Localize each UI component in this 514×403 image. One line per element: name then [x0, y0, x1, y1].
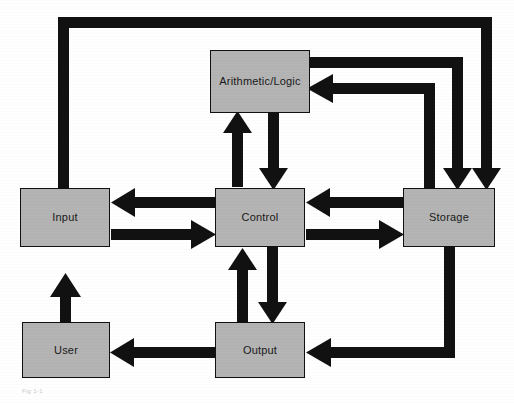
node-label-arithmetic-logic: Arithmetic/Logic [219, 76, 300, 87]
edge-storage-to-control [306, 188, 403, 217]
edge-alu-to-control [259, 113, 288, 190]
edge-storage-to-alu [307, 74, 435, 189]
node-output[interactable]: Output [215, 322, 305, 378]
figure-caption: Fig 1-1 [22, 388, 43, 394]
node-control[interactable]: Control [215, 188, 305, 247]
node-label-input: Input [52, 212, 77, 223]
edge-user-to-input [50, 273, 81, 325]
node-user[interactable]: User [22, 322, 110, 378]
node-label-output: Output [243, 345, 277, 356]
node-input[interactable]: Input [20, 188, 110, 247]
edge-storage-to-output [306, 246, 455, 367]
edge-control-to-storage [306, 220, 404, 249]
edge-input-to-control [111, 220, 216, 249]
edge-output-to-user [110, 338, 217, 367]
node-label-user: User [54, 345, 78, 356]
edge-output-to-control [228, 248, 257, 324]
edge-control-to-output [258, 247, 287, 324]
edge-control-to-input [111, 188, 216, 217]
node-storage[interactable]: Storage [403, 188, 495, 247]
block-diagram: Arithmetic/Logic Input Control Storage U… [0, 0, 514, 403]
node-arithmetic-logic[interactable]: Arithmetic/Logic [210, 50, 310, 113]
node-label-control: Control [242, 212, 279, 223]
edge-control-to-alu [223, 111, 252, 187]
node-label-storage: Storage [429, 212, 469, 223]
